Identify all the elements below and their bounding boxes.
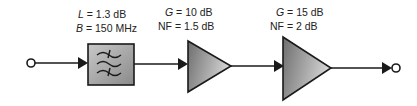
filter-bandwidth-label: B = 150 MHz [76, 22, 137, 34]
arrowhead-icon [78, 57, 88, 69]
arrowhead-icon [178, 58, 188, 70]
input-terminal [27, 59, 35, 67]
block-diagram: L = 1.3 dB B = 150 MHz G = 10 dB NF = 1.… [0, 0, 417, 106]
output-terminal [392, 64, 400, 72]
bandpass-filter-block [88, 44, 134, 85]
amp2-gain-label: G = 15 dB [276, 6, 324, 18]
amp2-nf-label: NF = 2 dB [270, 20, 318, 32]
amplifier-1-triangle [188, 41, 231, 92]
amplifier-2-triangle [283, 37, 331, 100]
amp1-nf-label: NF = 1.5 dB [158, 20, 214, 32]
amp1-gain-label: G = 10 dB [165, 6, 213, 18]
filter-loss-label: L = 1.3 dB [78, 8, 126, 20]
arrowhead-icon [382, 62, 392, 74]
